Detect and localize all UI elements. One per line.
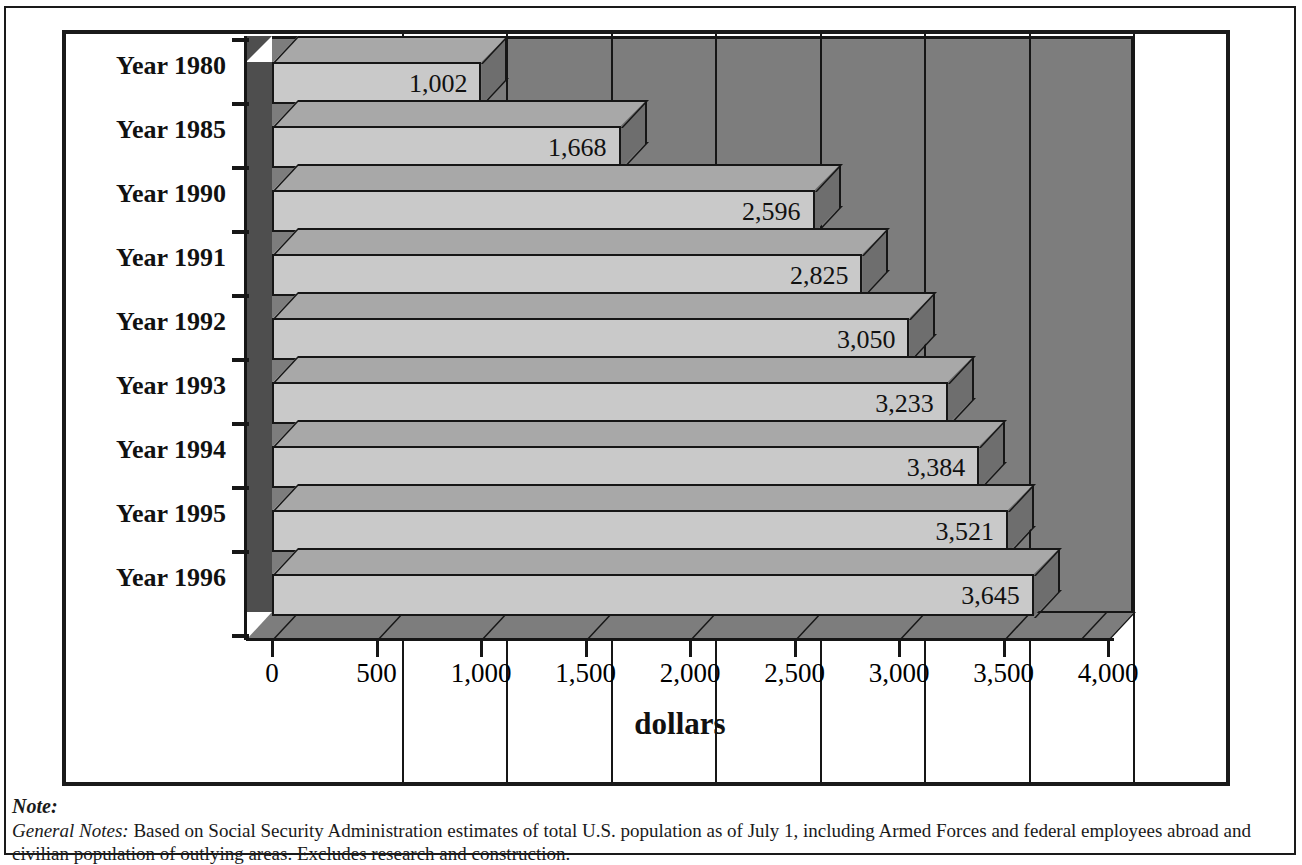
bar-top-edge (298, 36, 507, 38)
note-lead-label: General Notes: (12, 820, 129, 841)
bar-side-right-edge (645, 100, 647, 144)
category-label-year-1992: Year 1992 (74, 307, 226, 337)
category-label-year-1990: Year 1990 (74, 179, 226, 209)
category-label-year-1991: Year 1991 (74, 243, 226, 273)
bar-top-face (272, 484, 1034, 511)
bar-value-label: 2,825 (272, 258, 862, 294)
bar-side-right-edge (1032, 484, 1034, 528)
value-tick (1003, 641, 1006, 657)
category-label-year-1985: Year 1985 (74, 115, 226, 145)
plot-area: 1,0021,6682,5962,8253,0503,2333,3843,521… (66, 34, 1226, 782)
category-tick (232, 486, 249, 490)
category-tick (232, 294, 249, 298)
value-tick (794, 641, 797, 657)
bar: 1,002 (272, 36, 507, 106)
bar-top-face (272, 292, 935, 319)
bar-top-face (272, 420, 1005, 447)
value-axis-title: dollars (246, 706, 1114, 742)
bar-value-label: 1,668 (272, 130, 621, 166)
value-tick (1107, 641, 1110, 657)
category-tick (232, 550, 249, 554)
bar-value-label: 2,596 (272, 194, 815, 230)
note-heading: Note: (12, 795, 1292, 818)
value-tick-label: 0 (222, 658, 322, 689)
bar-side-right-edge (505, 36, 507, 80)
bar-top-face (272, 228, 888, 255)
bar: 3,050 (272, 292, 935, 362)
bar-top-face (272, 36, 507, 63)
bar-top-edge (298, 292, 935, 294)
note-body: General Notes: Based on Social Security … (12, 819, 1292, 865)
bar-side-right-edge (839, 164, 841, 208)
bar: 2,596 (272, 164, 841, 234)
value-tick (898, 641, 901, 657)
bar-top-edge (298, 100, 647, 102)
bar: 1,668 (272, 100, 647, 170)
category-tick (232, 422, 249, 426)
category-tick (232, 102, 249, 106)
category-tick (232, 166, 249, 170)
bar-top-edge (298, 356, 974, 358)
bar-value-label: 3,521 (272, 514, 1008, 550)
bar-value-label: 3,384 (272, 450, 979, 486)
bar-side-right-edge (886, 228, 888, 272)
bar-top-edge (298, 484, 1034, 486)
value-tick-label: 3,000 (849, 658, 949, 689)
bar-value-label: 1,002 (272, 66, 481, 102)
bar-top-face (272, 100, 647, 127)
category-label-year-1995: Year 1995 (74, 499, 226, 529)
bar: 3,521 (272, 484, 1034, 554)
category-label-year-1993: Year 1993 (74, 371, 226, 401)
bar-side-right-edge (972, 356, 974, 400)
value-tick-label: 3,500 (954, 658, 1054, 689)
plot-side-wall (246, 36, 272, 612)
value-tick (480, 641, 483, 657)
value-tick-label: 500 (327, 658, 427, 689)
value-tick (271, 641, 274, 657)
bar: 3,233 (272, 356, 974, 426)
value-tick-label: 2,500 (745, 658, 845, 689)
category-tick (232, 358, 249, 362)
bar-top-face (272, 164, 841, 191)
value-tick-label: 1,500 (536, 658, 636, 689)
bar-top-edge (298, 164, 841, 166)
bar-value-label: 3,645 (272, 578, 1034, 614)
value-tick (585, 641, 588, 657)
category-tick (232, 38, 249, 42)
value-tick-label: 4,000 (1058, 658, 1158, 689)
note-body-text: Based on Social Security Administration … (12, 820, 1251, 864)
bar-top-edge (298, 420, 1005, 422)
category-tick (232, 230, 249, 234)
bar-value-label: 3,050 (272, 322, 909, 358)
bar-top-face (272, 548, 1060, 575)
category-label-year-1994: Year 1994 (74, 435, 226, 465)
footnote-block: Note: General Notes: Based on Social Sec… (12, 795, 1292, 865)
bar-value-label: 3,233 (272, 386, 948, 422)
value-tick (689, 641, 692, 657)
bar: 3,384 (272, 420, 1005, 490)
value-tick-label: 1,000 (431, 658, 531, 689)
bar-side-right-edge (1058, 548, 1060, 592)
bar-top-edge (298, 548, 1060, 550)
category-label-year-1980: Year 1980 (74, 51, 226, 81)
value-tick (376, 641, 379, 657)
bar-side-right-edge (933, 292, 935, 336)
category-label-year-1996: Year 1996 (74, 563, 226, 593)
bar-side-right-edge (1003, 420, 1005, 464)
value-tick-label: 2,000 (640, 658, 740, 689)
bar: 2,825 (272, 228, 888, 298)
bar-top-edge (298, 228, 888, 230)
chart-panel: 1,0021,6682,5962,8253,0503,2333,3843,521… (62, 30, 1230, 786)
bar: 3,645 (272, 548, 1060, 618)
bar-top-face (272, 356, 974, 383)
